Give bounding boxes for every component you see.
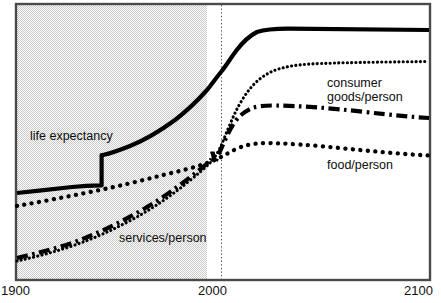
series-label-food-per-person: food/person (327, 158, 393, 172)
x-axis-tick-2000: 2000 (198, 283, 227, 298)
series-label-life-expectancy: life expectancy (30, 129, 113, 143)
series-label-services-per-person: services/person (119, 231, 207, 245)
series-label-consumer-goods-per-person: consumer goods/person (327, 76, 403, 104)
chart-container: 1900 2000 2100 life expectancy services/… (0, 0, 441, 303)
x-axis-tick-2100: 2100 (404, 283, 433, 298)
x-axis-tick-1900: 1900 (1, 283, 30, 298)
series-label-consumer-line2: goods/person (327, 90, 403, 104)
projections-line-chart (0, 0, 441, 303)
series-label-consumer-line1: consumer (327, 76, 382, 90)
